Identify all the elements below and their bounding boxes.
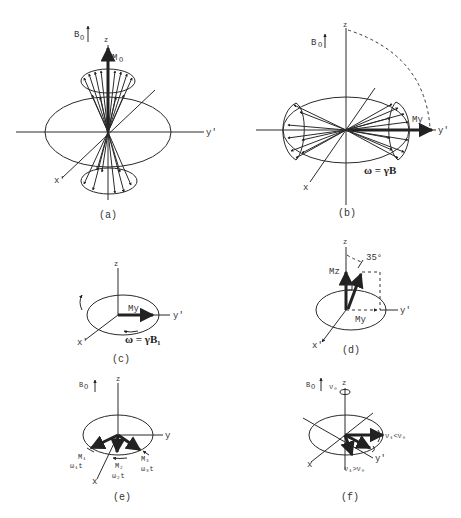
angle-arc xyxy=(347,255,362,262)
m1-vector xyxy=(91,435,118,448)
larmor-equation: ω = γB xyxy=(364,164,397,176)
svg-text:B: B xyxy=(306,381,310,389)
panel-d: z 35° Mz My y' x' (d) xyxy=(312,238,411,356)
nmr-precession-diagram: B O z M O y' x' xyxy=(0,0,461,518)
m-vector xyxy=(348,274,361,309)
my-label: My xyxy=(355,315,366,325)
caption-a: (a) xyxy=(99,210,117,221)
m2-vector xyxy=(117,435,118,452)
svg-text:B: B xyxy=(311,38,317,48)
caption-c: (c) xyxy=(112,354,130,365)
b1-equation: ω = γB₁ xyxy=(125,333,161,345)
x-label: x' xyxy=(54,176,65,186)
svg-text:y: y xyxy=(165,431,171,441)
caption-d: (d) xyxy=(342,345,360,356)
svg-text:O: O xyxy=(119,56,123,64)
panel-a: B O z M O y' x' xyxy=(16,26,217,221)
x-axis xyxy=(85,315,118,340)
svg-text:z: z xyxy=(343,21,347,29)
z-label: z xyxy=(104,36,108,44)
svg-text:z: z xyxy=(116,375,120,383)
svg-text:y': y' xyxy=(400,306,411,316)
rotation-arrow-icon xyxy=(80,295,82,310)
panel-f: B O ν₀ z y' x ν₁<ν₀ ν₁>ν₀ (f) xyxy=(303,378,406,503)
svg-text:B: B xyxy=(79,381,83,389)
panel-b: B O z y' My x xyxy=(256,21,449,219)
svg-text:x: x xyxy=(303,183,308,193)
nu-less-label: ν₁<ν₀ xyxy=(385,432,406,440)
svg-text:y': y' xyxy=(438,126,449,136)
x-axis xyxy=(322,310,346,342)
xy-plane-ellipse xyxy=(316,290,386,330)
m3-vector xyxy=(118,435,140,450)
svg-text:O: O xyxy=(84,383,88,391)
svg-text:x: x xyxy=(307,460,312,470)
y-axis xyxy=(303,418,373,458)
svg-text:ω₃t: ω₃t xyxy=(141,465,154,473)
projection-lines xyxy=(362,272,380,310)
rotation-arrow-icon xyxy=(124,331,138,332)
svg-text:O: O xyxy=(311,383,315,391)
panel-c: z y' My x' ω = γB₁ (c) xyxy=(77,260,184,365)
my-label: My xyxy=(412,115,423,125)
caption-b: (b) xyxy=(338,208,356,219)
svg-text:ω₂t: ω₂t xyxy=(112,472,125,480)
svg-text:y': y' xyxy=(173,311,184,321)
svg-text:O: O xyxy=(318,41,322,49)
caption-f: (f) xyxy=(341,492,359,503)
svg-text:z: z xyxy=(343,238,347,246)
svg-text:x': x' xyxy=(312,341,323,351)
rotation-arc xyxy=(348,30,430,128)
svg-text:x: x xyxy=(92,477,97,487)
mz-label: Mz xyxy=(329,267,340,277)
rotation-arrow-icon xyxy=(113,458,127,459)
svg-text:z: z xyxy=(342,379,346,387)
y-label: y' xyxy=(206,128,217,138)
svg-text:ω₁t: ω₁t xyxy=(70,462,83,470)
svg-text:x': x' xyxy=(77,338,88,348)
m2-label: M₂ xyxy=(115,462,123,470)
panel-e: B O z y x M₁ ω₁t M₂ ω₂t M₃ ω₃t (e) xyxy=(70,375,171,503)
svg-text:ν₀: ν₀ xyxy=(329,383,337,391)
svg-text:z: z xyxy=(114,260,118,268)
m1-label: M₁ xyxy=(78,453,86,461)
svg-text:y': y' xyxy=(375,454,386,464)
my-label: My xyxy=(128,304,139,314)
nu-greater-label: ν₁>ν₀ xyxy=(344,465,365,473)
m3-label: M₃ xyxy=(141,455,149,463)
m0-label: M xyxy=(112,53,117,63)
caption-e: (e) xyxy=(113,492,131,503)
svg-text:O: O xyxy=(80,34,84,42)
angle-label: 35° xyxy=(366,253,382,263)
